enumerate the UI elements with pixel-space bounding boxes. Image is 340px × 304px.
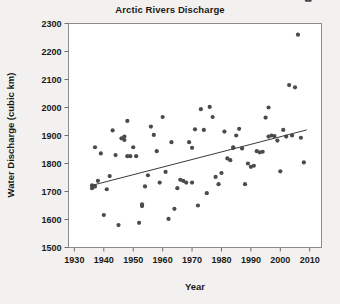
data-point (146, 173, 150, 177)
data-point (205, 191, 209, 195)
y-tick-label: 1800 (41, 159, 61, 169)
data-point (281, 128, 285, 132)
data-point (134, 154, 138, 158)
data-point (102, 213, 106, 217)
data-point (234, 133, 238, 137)
data-point (213, 175, 217, 179)
x-tick-label: 1970 (182, 255, 202, 265)
data-point (137, 221, 141, 225)
y-tick-label: 2300 (41, 19, 61, 29)
data-point (108, 174, 112, 178)
data-point (131, 145, 135, 149)
y-tick-label: 1500 (41, 243, 61, 253)
data-point (308, 0, 312, 2)
y-tick-label: 1900 (41, 131, 61, 141)
data-point (296, 33, 300, 37)
data-point (299, 136, 303, 140)
data-point (211, 115, 215, 119)
data-point (99, 151, 103, 155)
data-point (264, 115, 268, 119)
data-point (169, 140, 173, 144)
data-point (266, 105, 270, 109)
x-tick-label: 1960 (153, 255, 173, 265)
data-point (302, 160, 306, 164)
data-point (193, 127, 197, 131)
data-point (140, 202, 144, 206)
x-tick-label: 1930 (64, 255, 84, 265)
chart-figure: Arctic Rivers Discharge 1930194019501960… (0, 0, 340, 304)
data-point (222, 129, 226, 133)
data-point (275, 138, 279, 142)
data-point (163, 170, 167, 174)
data-point (237, 127, 241, 131)
y-tick-label: 2100 (41, 75, 61, 85)
data-point (199, 107, 203, 111)
data-point (175, 186, 179, 190)
data-point (111, 128, 115, 132)
data-point (261, 150, 265, 154)
x-tick-label: 1950 (123, 255, 143, 265)
y-tick-label: 1700 (41, 187, 61, 197)
data-point (166, 217, 170, 221)
data-point (202, 128, 206, 132)
data-point (287, 83, 291, 87)
data-point (113, 153, 117, 157)
data-point (149, 124, 153, 128)
x-axis-ticks: 193019401950196019701980199020002010 (64, 248, 319, 265)
data-point (143, 184, 147, 188)
x-axis-title: Year (185, 281, 205, 292)
x-tick-label: 2000 (270, 255, 290, 265)
data-point (161, 115, 165, 119)
y-axis-ticks: 150016001700180019002000210022002300 (41, 19, 68, 253)
data-point (93, 145, 97, 149)
data-point (293, 85, 297, 89)
data-point (105, 187, 109, 191)
data-point (208, 105, 212, 109)
data-point (196, 203, 200, 207)
data-point (243, 182, 247, 186)
data-point (252, 164, 256, 168)
y-tick-label: 2000 (41, 103, 61, 113)
data-point (122, 135, 126, 139)
data-point (155, 149, 159, 153)
x-tick-label: 1940 (94, 255, 114, 265)
data-point (246, 161, 250, 165)
data-point (96, 179, 100, 183)
data-point (187, 140, 191, 144)
y-tick-label: 1600 (41, 215, 61, 225)
y-tick-label: 2200 (41, 47, 61, 57)
data-point (190, 146, 194, 150)
data-point (116, 223, 120, 227)
y-axis-title: Water Discharge (cubic km) (5, 73, 16, 198)
data-point (172, 207, 176, 211)
x-tick-label: 1990 (241, 255, 261, 265)
data-point (158, 180, 162, 184)
data-point (128, 154, 132, 158)
data-point (278, 169, 282, 173)
data-point (219, 171, 223, 175)
data-point (216, 182, 220, 186)
data-point (190, 180, 194, 184)
data-point (184, 180, 188, 184)
data-point (228, 158, 232, 162)
data-point (152, 133, 156, 137)
scatter-plot: 193019401950196019701980199020002010 150… (0, 0, 340, 304)
x-tick-label: 2010 (300, 255, 320, 265)
x-tick-label: 1980 (211, 255, 231, 265)
data-point (125, 119, 129, 123)
